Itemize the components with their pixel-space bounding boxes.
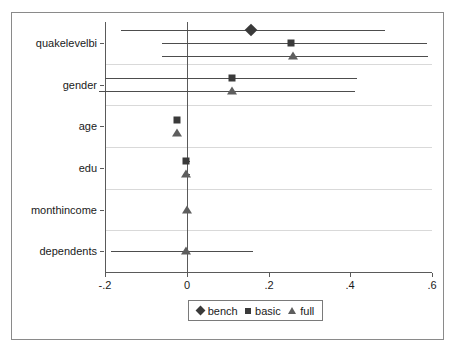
legend-label-bench: bench	[208, 305, 238, 317]
gridline-horizontal	[105, 147, 432, 148]
gridline-horizontal	[105, 230, 432, 231]
y-tick-label-quakelevelbi: quakelevelbi	[14, 37, 97, 49]
x-tick-mark	[269, 273, 270, 277]
gridline-horizontal	[105, 189, 432, 190]
x-tick-label: 0	[184, 279, 190, 291]
diamond-marker-icon	[195, 306, 205, 316]
y-tick-label-gender: gender	[14, 79, 97, 91]
y-tick-label-monthincome: monthincome	[14, 204, 97, 216]
gridline-horizontal	[105, 105, 432, 106]
y-tick-mark	[100, 251, 104, 252]
triangle-marker-full	[172, 129, 182, 137]
x-tick-mark	[432, 273, 433, 277]
square-marker-icon	[245, 308, 251, 314]
square-marker-basic	[173, 117, 180, 124]
x-tick-label: .2	[264, 279, 273, 291]
y-tick-mark	[100, 43, 104, 44]
plot-area: -.20.2.4.6quakelevelbigenderageedumonthi…	[0, 0, 456, 350]
x-tick-mark	[105, 273, 106, 277]
square-marker-basic	[288, 40, 295, 47]
x-tick-label: .4	[345, 279, 354, 291]
triangle-marker-icon	[288, 307, 296, 314]
y-tick-mark	[100, 85, 104, 86]
y-tick-label-dependents: dependents	[14, 245, 97, 257]
x-tick-mark	[187, 273, 188, 277]
x-tick-label: -.2	[99, 279, 112, 291]
y-tick-mark	[100, 126, 104, 127]
y-tick-mark	[100, 210, 104, 211]
triangle-marker-full	[288, 52, 298, 60]
y-axis-spine	[105, 22, 106, 272]
triangle-marker-full	[181, 170, 191, 178]
triangle-marker-full	[181, 247, 191, 255]
y-tick-label-age: age	[14, 120, 97, 132]
legend-item-full: full	[288, 305, 314, 317]
legend-label-basic: basic	[255, 305, 281, 317]
triangle-marker-full	[182, 206, 192, 214]
chart-page: -.20.2.4.6quakelevelbigenderageedumonthi…	[0, 0, 456, 350]
legend-item-basic: basic	[245, 305, 281, 317]
chart-legend: bench basic full	[188, 300, 323, 321]
diamond-marker-bench	[244, 24, 257, 37]
x-tick-label: .6	[427, 279, 436, 291]
legend-label-full: full	[300, 305, 314, 317]
y-tick-mark	[100, 168, 104, 169]
square-marker-basic	[228, 75, 235, 82]
square-marker-basic	[182, 158, 189, 165]
legend-item-bench: bench	[197, 305, 238, 317]
gridline-horizontal	[105, 64, 432, 65]
x-tick-mark	[350, 273, 351, 277]
y-tick-label-edu: edu	[14, 162, 97, 174]
triangle-marker-full	[227, 87, 237, 95]
zero-reference-line	[187, 22, 188, 272]
